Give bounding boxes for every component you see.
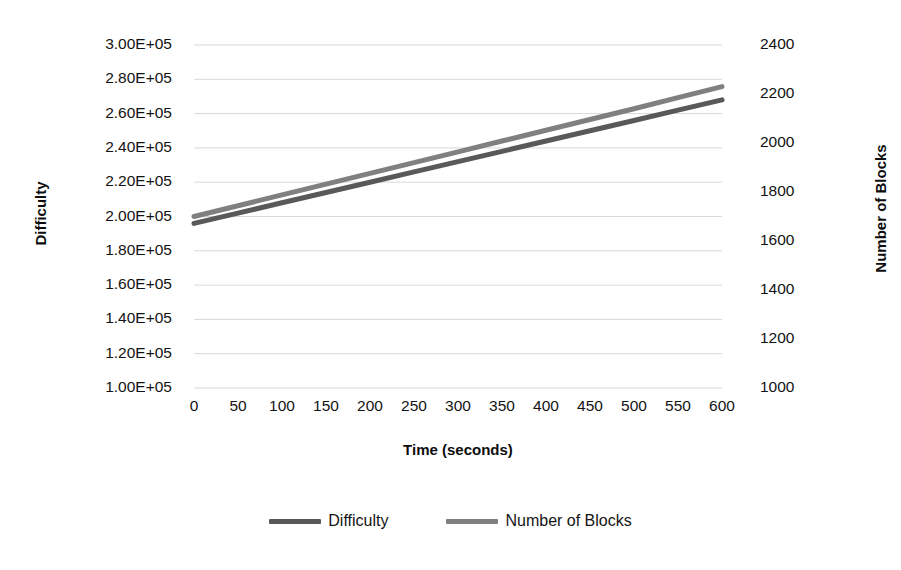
y-axis-right-tick-label: 2400 [760,35,840,53]
y-axis-right-title: Number of Blocks [872,119,889,299]
y-axis-left-tick-label: 1.40E+05 [60,309,172,327]
y-axis-left-tick-label: 3.00E+05 [60,35,172,53]
y-axis-left-tick-label: 1.00E+05 [60,378,172,396]
legend-item[interactable]: Difficulty [269,512,388,530]
y-axis-left-tick-label: 1.60E+05 [60,275,172,293]
y-axis-left-tick-label: 2.20E+05 [60,172,172,190]
chart-legend: DifficultyNumber of Blocks [0,512,901,530]
y-axis-right-tick-label: 1400 [760,280,840,298]
legend-label: Number of Blocks [505,512,631,530]
x-axis-title: Time (seconds) [194,441,722,458]
chart-figure: Difficulty Number of Blocks Time (second… [0,0,901,570]
y-axis-right-tick-label: 1600 [760,231,840,249]
plot-svg [194,45,722,388]
y-axis-right-tick-label: 2200 [760,84,840,102]
y-axis-right-tick-label: 1200 [760,329,840,347]
legend-label: Difficulty [328,512,388,530]
plot-area [194,45,722,388]
y-axis-left-tick-label: 2.80E+05 [60,69,172,87]
y-axis-right-tick-label: 1800 [760,182,840,200]
series-lines [194,87,722,224]
legend-swatch-icon [446,519,498,524]
y-axis-right-tick-label: 1000 [760,378,840,396]
y-axis-left-tick-label: 2.40E+05 [60,138,172,156]
y-axis-left-tick-label: 1.20E+05 [60,344,172,362]
y-axis-right-tick-label: 2000 [760,133,840,151]
gridlines [194,45,722,388]
legend-item[interactable]: Number of Blocks [446,512,631,530]
y-axis-left-tick-label: 2.60E+05 [60,104,172,122]
series-line-difficulty [194,100,722,223]
y-axis-left-title: Difficulty [32,144,49,284]
legend-swatch-icon [269,519,321,524]
y-axis-left-tick-label: 2.00E+05 [60,207,172,225]
x-axis-tick-label: 600 [692,397,752,415]
series-line-number-of-blocks [194,87,722,217]
y-axis-left-tick-label: 1.80E+05 [60,241,172,259]
